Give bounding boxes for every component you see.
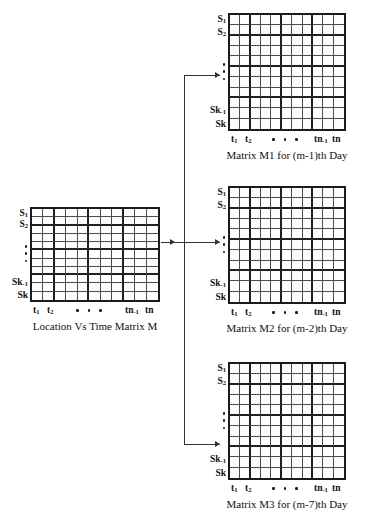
matrix-cell bbox=[271, 77, 281, 87]
matrix-cell bbox=[313, 426, 323, 436]
matrix-cell bbox=[303, 292, 313, 302]
matrix-cell bbox=[323, 437, 333, 447]
matrix-cell bbox=[251, 261, 261, 271]
row-label-sk-1: Sk-1 bbox=[12, 278, 28, 288]
matrix-cell bbox=[282, 447, 292, 457]
matrix-cell bbox=[230, 209, 240, 219]
matrix-cell bbox=[89, 250, 100, 258]
matrix-cell bbox=[251, 108, 261, 118]
matrix-cell bbox=[230, 437, 240, 447]
matrix-cell bbox=[240, 261, 250, 271]
matrix-cell bbox=[303, 374, 313, 384]
matrix-cell bbox=[32, 226, 43, 234]
row-label-s1: S1 bbox=[217, 364, 226, 374]
matrix-cell bbox=[282, 98, 292, 108]
matrix-cell bbox=[112, 283, 123, 291]
matrix-cell bbox=[313, 457, 323, 467]
matrix-cell bbox=[43, 283, 54, 291]
arrowhead-source-out bbox=[170, 239, 175, 245]
matrix-cell bbox=[240, 416, 250, 426]
matrix-cell bbox=[303, 219, 313, 229]
matrix-cell bbox=[261, 108, 271, 118]
matrix-grid-m3 bbox=[228, 362, 346, 480]
matrix-cell bbox=[66, 275, 77, 283]
matrix-cell bbox=[261, 46, 271, 56]
matrix-cell bbox=[32, 292, 43, 300]
matrix-cell bbox=[240, 437, 250, 447]
matrix-cell bbox=[292, 88, 302, 98]
matrix-cell bbox=[323, 240, 333, 250]
matrix-cell bbox=[334, 426, 344, 436]
matrix-cell bbox=[303, 271, 313, 281]
matrix-cell bbox=[313, 261, 323, 271]
matrix-cell bbox=[292, 385, 302, 395]
matrix-cell bbox=[251, 209, 261, 219]
row-label-sk: Sk bbox=[215, 469, 226, 479]
matrix-cell bbox=[282, 36, 292, 46]
matrix-cell bbox=[230, 198, 240, 208]
matrix-cell bbox=[230, 281, 240, 291]
matrix-cell bbox=[323, 36, 333, 46]
matrix-cell bbox=[323, 229, 333, 239]
matrix-cell bbox=[135, 242, 146, 250]
matrix-cell bbox=[251, 426, 261, 436]
matrix-cell bbox=[230, 108, 240, 118]
matrix-cell bbox=[271, 108, 281, 118]
matrix-cell bbox=[240, 108, 250, 118]
matrix-cell bbox=[334, 261, 344, 271]
matrix-cell bbox=[271, 447, 281, 457]
matrix-cell bbox=[78, 234, 89, 242]
matrix-cell bbox=[323, 56, 333, 66]
matrix-cell bbox=[32, 217, 43, 225]
matrix-cell bbox=[230, 36, 240, 46]
matrix-cell bbox=[251, 88, 261, 98]
matrix-cell bbox=[271, 240, 281, 250]
row-label-s2: S2 bbox=[19, 220, 28, 230]
matrix-cell bbox=[251, 240, 261, 250]
matrix-cell bbox=[271, 385, 281, 395]
matrix-cell bbox=[55, 250, 66, 258]
row-ellipsis-source bbox=[25, 245, 28, 262]
matrix-cell bbox=[282, 292, 292, 302]
row-label-sk-1: Sk-1 bbox=[210, 279, 226, 289]
matrix-cell bbox=[303, 416, 313, 426]
matrix-cell bbox=[78, 250, 89, 258]
matrix-cell bbox=[334, 209, 344, 219]
caption-matrix-m3: Matrix M3 for (m-7)th Day bbox=[192, 498, 376, 510]
matrix-cell bbox=[66, 283, 77, 291]
matrix-cell bbox=[251, 36, 261, 46]
matrix-cell bbox=[251, 374, 261, 384]
matrix-cell bbox=[303, 209, 313, 219]
matrix-cell bbox=[230, 395, 240, 405]
matrix-cell bbox=[66, 234, 77, 242]
matrix-cell bbox=[251, 385, 261, 395]
matrix-cell bbox=[251, 250, 261, 260]
matrix-cell bbox=[66, 217, 77, 225]
matrix-cell bbox=[261, 56, 271, 66]
matrix-cell bbox=[251, 67, 261, 77]
matrix-cell bbox=[323, 219, 333, 229]
matrix-cell bbox=[240, 77, 250, 87]
col-ellipsis-m1 bbox=[272, 138, 298, 141]
matrix-cell bbox=[334, 271, 344, 281]
matrix-cell bbox=[261, 364, 271, 374]
matrix-cell bbox=[292, 447, 302, 457]
matrix-cell bbox=[261, 15, 271, 25]
matrix-cell bbox=[334, 250, 344, 260]
matrix-cell bbox=[282, 56, 292, 66]
matrix-cell bbox=[135, 234, 146, 242]
matrix-cell bbox=[101, 234, 112, 242]
row-ellipsis-m3 bbox=[223, 412, 226, 429]
matrix-cell bbox=[230, 240, 240, 250]
matrix-cell bbox=[230, 374, 240, 384]
matrix-cell bbox=[282, 385, 292, 395]
matrix-cell bbox=[230, 457, 240, 467]
matrix-cell bbox=[334, 108, 344, 118]
matrix-cell bbox=[135, 226, 146, 234]
matrix-cell bbox=[334, 240, 344, 250]
matrix-cell bbox=[313, 77, 323, 87]
matrix-cell bbox=[334, 188, 344, 198]
matrix-cell bbox=[282, 271, 292, 281]
matrix-cell bbox=[282, 108, 292, 118]
matrix-cell bbox=[271, 56, 281, 66]
